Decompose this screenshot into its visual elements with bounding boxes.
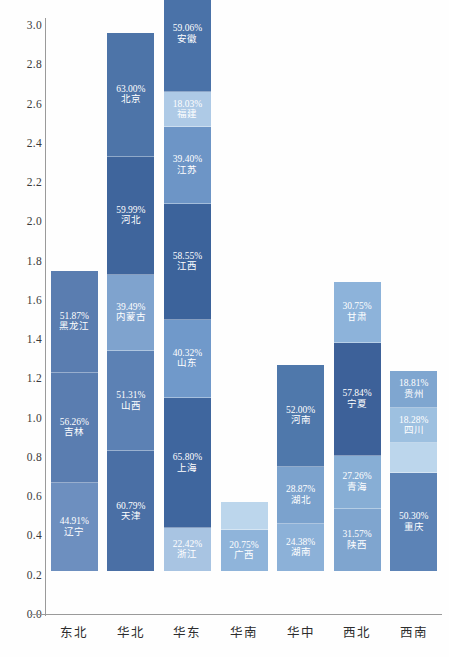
y-axis-tick-0.6: 0.6 — [4, 490, 42, 502]
segment-name-label: 天津 — [121, 511, 141, 522]
bar-segment-吉林[interactable]: 56.26%吉林 — [51, 373, 98, 483]
y-axis-tick-2.2: 2.2 — [4, 176, 42, 188]
segment-value-label: 60.79% — [116, 501, 145, 512]
x-axis-line — [30, 614, 442, 615]
segment-value-label: 56.26% — [60, 417, 89, 428]
stacked-bar-chart: 0.00.20.40.60.81.01.21.41.61.82.02.22.42… — [0, 0, 449, 657]
segment-value-label: 18.28% — [399, 415, 428, 426]
y-axis-tick-labels: 0.00.20.40.60.81.01.21.41.61.82.02.22.42… — [0, 0, 42, 657]
y-axis-tick-0.2: 0.2 — [4, 569, 42, 581]
bar-segment-江西[interactable]: 58.55%江西 — [164, 204, 211, 320]
bar-segment-北京[interactable]: 63.00%北京 — [107, 33, 154, 157]
segment-value-label: 57.84% — [342, 388, 371, 399]
y-axis-tick-1.4: 1.4 — [4, 333, 42, 345]
segment-value-label: 18.81% — [399, 378, 428, 389]
segment-value-label: 50.30% — [399, 511, 428, 522]
segment-name-label: 贵州 — [404, 389, 424, 400]
segment-name-label: 湖北 — [291, 495, 311, 506]
segment-name-label: 内蒙古 — [116, 312, 146, 323]
bar-segment-甘肃[interactable]: 30.75%甘肃 — [334, 282, 381, 342]
bar-segment-广西[interactable]: 20.75%广西 — [221, 530, 268, 571]
y-axis-tick-2.0: 2.0 — [4, 215, 42, 227]
segment-name-label: 山东 — [177, 358, 197, 369]
segment-value-label: 40.32% — [173, 348, 202, 359]
bar-segment-上海[interactable]: 65.80%上海 — [164, 398, 211, 528]
bars-layer: 44.91%辽宁56.26%吉林51.87%黑龙江60.79%天津51.31%山… — [46, 0, 442, 614]
segment-name-label: 宁夏 — [347, 399, 367, 410]
segment-name-label: 青海 — [347, 482, 367, 493]
segment-value-label: 20.75% — [229, 540, 258, 551]
y-axis-tick-1.6: 1.6 — [4, 294, 42, 306]
bar-segment-重庆[interactable]: 50.30%重庆 — [390, 473, 437, 571]
bar-华中[interactable]: 24.38%湖南28.87%湖北52.00%河南 — [277, 363, 324, 571]
bar-segment-湖北[interactable]: 28.87%湖北 — [277, 467, 324, 524]
y-axis-tick-2.8: 2.8 — [4, 58, 42, 70]
y-axis-tick-2.4: 2.4 — [4, 137, 42, 149]
segment-name-label: 江苏 — [177, 165, 197, 176]
bar-segment-福建[interactable]: 18.03%福建 — [164, 92, 211, 127]
x-axis-label-华南: 华南 — [230, 622, 258, 641]
bar-segment-安徽[interactable]: 59.06%安徽 — [164, 0, 211, 92]
segment-name-label: 四川 — [404, 425, 424, 436]
segment-name-label: 黑龙江 — [59, 321, 89, 332]
segment-value-label: 59.06% — [173, 23, 202, 34]
bar-segment-天津[interactable]: 60.79%天津 — [107, 451, 154, 571]
segment-name-label: 甘肃 — [347, 312, 367, 323]
bar-华东[interactable]: 22.42%浙江65.80%上海40.32%山东58.55%江西39.40%江苏… — [164, 0, 211, 571]
segment-name-label: 江西 — [177, 261, 197, 272]
bar-西南[interactable]: 50.30%重庆18.28%四川18.81%贵州 — [390, 371, 437, 571]
bar-segment-青海[interactable]: 27.26%青海 — [334, 456, 381, 509]
segment-name-label: 河南 — [291, 415, 311, 426]
segment-value-label: 30.75% — [342, 301, 371, 312]
x-axis-label-西南: 西南 — [400, 622, 428, 641]
segment-value-label: 39.49% — [116, 302, 145, 313]
segment-value-label: 24.38% — [286, 537, 315, 548]
segment-name-label: 北京 — [121, 94, 141, 105]
bar-segment-山西[interactable]: 51.31%山西 — [107, 351, 154, 451]
bar-segment-浙江[interactable]: 22.42%浙江 — [164, 528, 211, 571]
bar-segment-辽宁[interactable]: 44.91%辽宁 — [51, 483, 98, 571]
segment-name-label: 安徽 — [177, 34, 197, 45]
segment-name-label: 山西 — [121, 401, 141, 412]
segment-name-label: 浙江 — [177, 549, 197, 560]
segment-value-label: 59.99% — [116, 205, 145, 216]
segment-name-label: 河北 — [121, 215, 141, 226]
segment-name-label: 福建 — [177, 109, 197, 120]
x-axis-label-东北: 东北 — [60, 622, 88, 641]
segment-value-label: 27.26% — [342, 471, 371, 482]
bar-segment[interactable] — [221, 502, 268, 529]
bar-segment-河南[interactable]: 52.00%河南 — [277, 365, 324, 467]
x-axis-label-华北: 华北 — [117, 622, 145, 641]
segment-value-label: 18.03% — [173, 99, 202, 110]
y-axis-tick-0.4: 0.4 — [4, 529, 42, 541]
bar-segment-四川[interactable]: 18.28%四川 — [390, 408, 437, 443]
y-axis-tick-1.8: 1.8 — [4, 255, 42, 267]
y-axis-tick-1.2: 1.2 — [4, 372, 42, 384]
bar-segment-内蒙古[interactable]: 39.49%内蒙古 — [107, 275, 154, 352]
bar-segment-山东[interactable]: 40.32%山东 — [164, 320, 211, 399]
y-axis-tick-2.6: 2.6 — [4, 98, 42, 110]
bar-华南[interactable]: 20.75%广西 — [221, 502, 268, 571]
segment-value-label: 63.00% — [116, 84, 145, 95]
segment-value-label: 31.57% — [342, 529, 371, 540]
segment-value-label: 39.40% — [173, 154, 202, 165]
segment-value-label: 58.55% — [173, 251, 202, 262]
bar-segment-湖南[interactable]: 24.38%湖南 — [277, 524, 324, 571]
bar-segment-陕西[interactable]: 31.57%陕西 — [334, 509, 381, 571]
segment-value-label: 51.87% — [60, 311, 89, 322]
bar-segment-黑龙江[interactable]: 51.87%黑龙江 — [51, 271, 98, 373]
segment-name-label: 吉林 — [64, 427, 84, 438]
segment-value-label: 22.42% — [173, 539, 202, 550]
bar-segment[interactable] — [390, 443, 437, 472]
bar-segment-河北[interactable]: 59.99%河北 — [107, 157, 154, 275]
segment-value-label: 65.80% — [173, 452, 202, 463]
bar-东北[interactable]: 44.91%辽宁56.26%吉林51.87%黑龙江 — [51, 271, 98, 571]
bar-segment-江苏[interactable]: 39.40%江苏 — [164, 127, 211, 204]
x-axis-category-labels: 东北华北华东华南华中西北西南 — [46, 622, 442, 648]
segment-name-label: 辽宁 — [64, 527, 84, 538]
segment-value-label: 52.00% — [286, 405, 315, 416]
bar-华北[interactable]: 60.79%天津51.31%山西39.49%内蒙古59.99%河北63.00%北… — [107, 31, 154, 571]
bar-segment-贵州[interactable]: 18.81%贵州 — [390, 371, 437, 408]
bar-segment-宁夏[interactable]: 57.84%宁夏 — [334, 343, 381, 456]
bar-西北[interactable]: 31.57%陕西27.26%青海57.84%宁夏30.75%甘肃 — [334, 282, 381, 571]
